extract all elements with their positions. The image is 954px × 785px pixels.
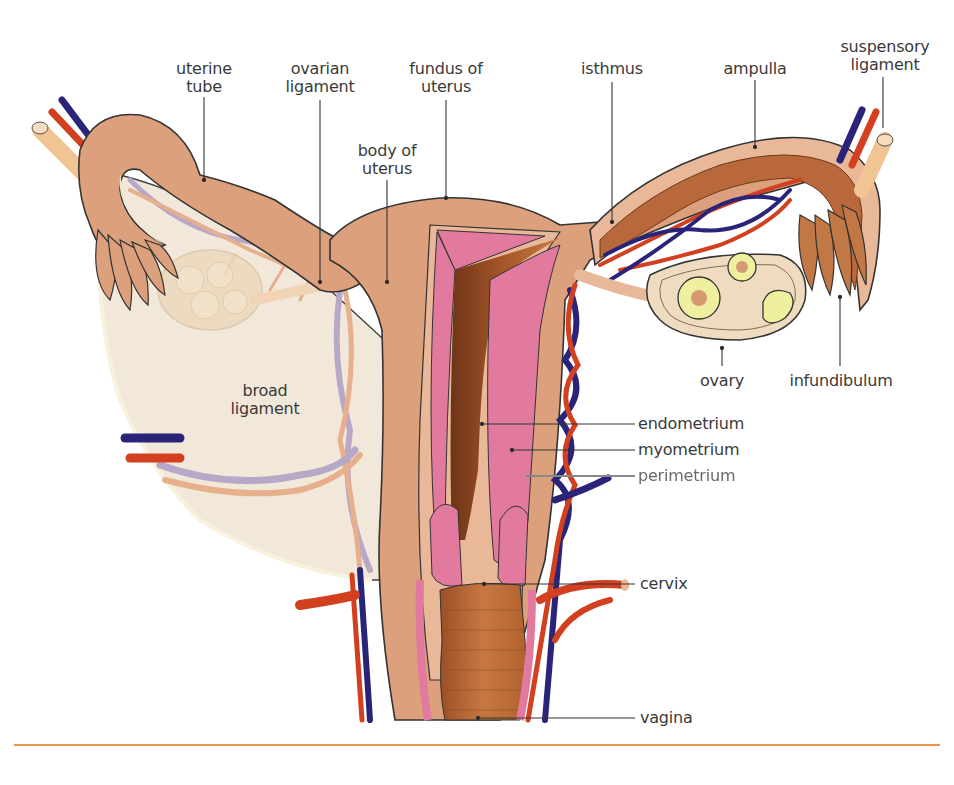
label-endometrium: endometrium bbox=[638, 415, 744, 433]
label-suspensory-ligament: suspensory ligament bbox=[833, 38, 937, 74]
label-ovary: ovary bbox=[694, 372, 750, 390]
bottom-divider-rule bbox=[14, 744, 940, 746]
right-ovary bbox=[647, 253, 806, 340]
label-uterine-tube: uterine tube bbox=[168, 60, 240, 96]
label-infundibulum: infundibulum bbox=[782, 372, 900, 390]
label-body-of-uterus: body of uterus bbox=[350, 142, 424, 178]
reproductive-anatomy-diagram: uterine tube ovarian ligament fundus of … bbox=[0, 0, 954, 785]
label-myometrium: myometrium bbox=[638, 441, 739, 459]
label-ampulla: ampulla bbox=[718, 60, 792, 78]
label-ovarian-ligament: ovarian ligament bbox=[275, 60, 365, 96]
label-perimetrium: perimetrium bbox=[638, 467, 735, 485]
label-cervix: cervix bbox=[640, 575, 687, 593]
label-broad-ligament: broad ligament bbox=[225, 382, 305, 418]
label-isthmus: isthmus bbox=[575, 60, 649, 78]
label-vagina: vagina bbox=[640, 709, 693, 727]
label-fundus-of-uterus: fundus of uterus bbox=[400, 60, 492, 96]
